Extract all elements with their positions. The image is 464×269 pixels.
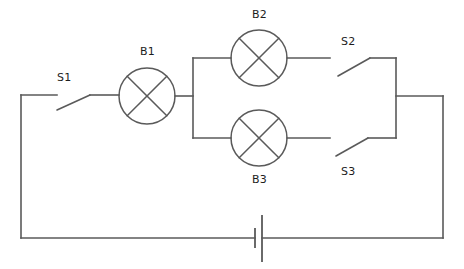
label-b3: B3	[252, 174, 267, 185]
circuit-diagram: S1 B1 B2 B3 S2 S3	[0, 0, 464, 269]
s2-switch-blade[interactable]	[338, 58, 370, 76]
label-s2: S2	[341, 36, 355, 47]
circuit-schematic-svg	[0, 0, 464, 269]
label-b2: B2	[252, 9, 267, 20]
label-s3: S3	[341, 166, 355, 177]
label-s1: S1	[57, 72, 71, 83]
s3-switch-blade[interactable]	[336, 138, 368, 156]
s1-switch-blade[interactable]	[57, 95, 90, 110]
label-b1: B1	[140, 46, 155, 57]
